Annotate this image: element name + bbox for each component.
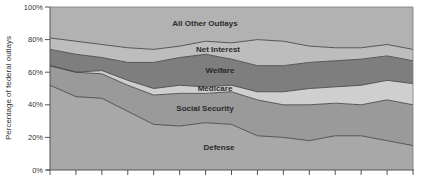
- stacked-area-chart: 0%20%40%60%80%100% Percentage of federal…: [0, 0, 422, 175]
- y-tick-label: 0%: [32, 166, 43, 175]
- y-tick-label: 80%: [28, 35, 43, 44]
- y-tick-label: 20%: [28, 133, 43, 142]
- label-social-security: Social Security: [176, 104, 234, 113]
- label-all-other-outlays: All Other Outlays: [172, 19, 238, 28]
- label-medicare: Medicare: [198, 84, 233, 93]
- y-ticks: 0%20%40%60%80%100%: [24, 3, 50, 175]
- y-axis-label: Percentage of federal outlays: [4, 36, 13, 140]
- y-tick-label: 60%: [28, 68, 43, 77]
- x-ticks: [50, 170, 413, 175]
- y-tick-label: 100%: [24, 3, 44, 12]
- label-net-interest: Net Interest: [196, 45, 240, 54]
- label-welfare: Welfare: [206, 66, 235, 75]
- y-tick-label: 40%: [28, 100, 43, 109]
- label-defense: Defense: [203, 143, 235, 152]
